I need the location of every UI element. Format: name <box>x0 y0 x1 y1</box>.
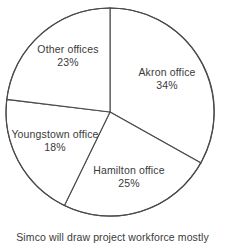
pie-label-other-offices-value: 23% <box>22 56 114 69</box>
pie-label-hamilton-office-name: Hamilton office <box>79 164 179 177</box>
pie-label-youngstown-office: Youngstown office 18% <box>1 128 109 153</box>
pie-label-other-offices: Other offices 23% <box>22 43 114 68</box>
pie-chart-graphic <box>0 0 225 250</box>
pie-label-akron-office-value: 34% <box>124 79 210 92</box>
pie-label-akron-office: Akron office 34% <box>124 66 210 91</box>
pie-label-hamilton-office: Hamilton office 25% <box>79 164 179 189</box>
pie-label-youngstown-office-value: 18% <box>1 141 109 154</box>
pie-label-hamilton-office-value: 25% <box>79 177 179 190</box>
pie-label-akron-office-name: Akron office <box>124 66 210 79</box>
figure-caption: Simco will draw project workforce mostly <box>0 231 225 244</box>
pie-label-other-offices-name: Other offices <box>22 43 114 56</box>
pie-chart-figure: Akron office 34% Other offices 23% Young… <box>0 0 225 250</box>
pie-label-youngstown-office-name: Youngstown office <box>1 128 109 141</box>
